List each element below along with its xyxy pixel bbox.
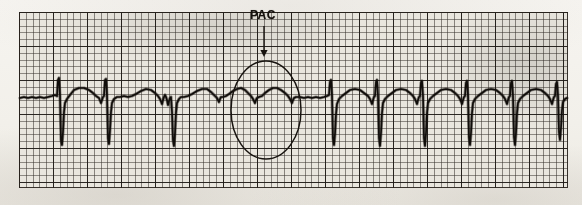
pac-arrow-head <box>260 50 267 57</box>
pac-highlight-ellipse <box>231 61 301 159</box>
pac-label: PAC <box>250 9 276 21</box>
annotation-layer <box>0 0 582 205</box>
ecg-figure: PAC <box>0 0 582 205</box>
